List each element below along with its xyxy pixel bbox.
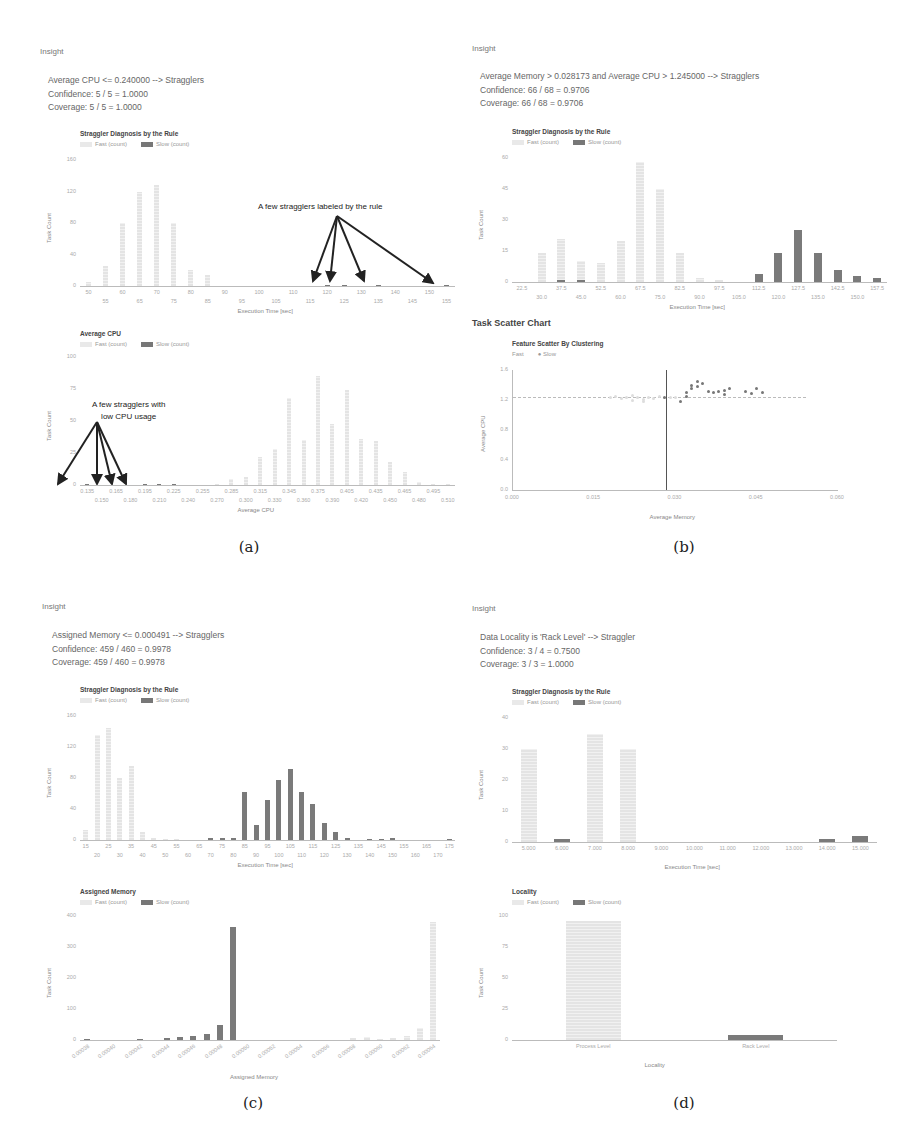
bar-fast[interactable] [258,457,262,485]
point-fast[interactable] [609,396,612,399]
point-fast[interactable] [652,397,655,400]
bar-fast[interactable] [350,1038,356,1040]
bar-fast[interactable] [566,921,621,1040]
bar-slow[interactable] [276,780,281,840]
bar-fast[interactable] [151,838,156,840]
bar-slow[interactable] [242,792,247,840]
point-slow[interactable] [728,387,731,390]
point-slow[interactable] [696,380,699,383]
point-slow[interactable] [696,385,699,388]
point-slow[interactable] [717,390,720,393]
bar-slow[interactable] [814,253,822,282]
bar-slow[interactable] [379,839,384,841]
bar-fast[interactable] [137,192,142,287]
bar-fast[interactable] [577,261,585,282]
point-slow[interactable] [755,387,758,390]
point-fast[interactable] [647,396,650,399]
bar-fast[interactable] [117,778,122,840]
bar-fast[interactable] [390,1038,396,1040]
bar-slow[interactable] [794,230,802,282]
bar-slow[interactable] [774,253,782,282]
bar-fast[interactable] [587,734,603,843]
point-slow[interactable] [712,391,715,394]
bar-fast[interactable] [95,735,100,840]
bar-slow[interactable] [157,484,161,486]
legend-item-fast[interactable]: Fast (count) [80,141,127,147]
point-fast[interactable] [642,400,645,403]
bar-slow[interactable] [190,1036,196,1040]
bar-slow[interactable] [231,838,236,840]
bar-fast[interactable] [430,922,436,1040]
point-slow[interactable] [663,396,666,399]
point-fast[interactable] [620,397,623,400]
bar-fast[interactable] [597,263,605,282]
bar-fast[interactable] [431,484,435,486]
bar-slow[interactable] [342,285,347,287]
point-slow[interactable] [707,390,710,393]
bar-slow[interactable] [557,280,565,282]
bar-slow[interactable] [819,839,835,842]
point-slow[interactable] [685,395,688,398]
point-slow[interactable] [690,384,693,387]
bar-fast[interactable] [417,1028,423,1040]
point-slow[interactable] [744,390,747,393]
bar-fast[interactable] [106,728,111,840]
bar-fast[interactable] [129,766,134,840]
bar-fast[interactable] [388,462,392,485]
bar-slow[interactable] [164,1038,170,1040]
bar-slow[interactable] [84,1039,90,1041]
bar-slow[interactable] [177,1037,183,1040]
legend-item-slow[interactable]: Slow (count) [573,139,621,145]
bar-fast[interactable] [656,189,664,282]
bar-slow[interactable] [322,823,327,840]
bar-slow[interactable] [853,276,861,282]
bar-slow[interactable] [345,838,350,840]
point-fast[interactable] [658,395,661,398]
legend-item-slow[interactable]: Slow (count) [573,899,621,905]
bar-fast[interactable] [359,439,363,485]
bar-slow[interactable] [204,1034,210,1040]
bar-fast[interactable] [330,424,334,485]
legend-item-slow[interactable]: Slow (count) [141,697,189,703]
bar-fast[interactable] [715,280,723,282]
legend-item-fast[interactable]: Fast (count) [80,341,127,347]
legend-item-slow[interactable]: Slow (count) [141,141,189,147]
point-slow[interactable] [723,393,726,396]
bar-slow[interactable] [447,839,452,841]
bar-slow[interactable] [554,839,570,842]
bar-slow[interactable] [444,285,449,287]
bar-fast[interactable] [188,270,193,286]
bar-slow[interactable] [85,484,89,486]
point-slow[interactable] [679,400,682,403]
point-fast[interactable] [669,396,672,399]
bar-slow[interactable] [230,927,236,1040]
point-slow[interactable] [701,382,704,385]
bar-slow[interactable] [143,484,147,486]
bar-fast[interactable] [364,1037,370,1040]
bar-fast[interactable] [163,839,168,841]
bar-slow[interactable] [137,1039,143,1041]
bar-fast[interactable] [636,162,644,282]
point-fast[interactable] [636,396,639,399]
legend-item-fast[interactable]: Fast (count) [512,139,559,145]
bar-slow[interactable] [325,285,330,287]
bar-fast[interactable] [171,223,176,286]
bar-fast[interactable] [676,253,684,282]
point-fast[interactable] [631,394,634,397]
bar-fast[interactable] [229,479,233,485]
bar-fast[interactable] [557,239,565,282]
bar-fast[interactable] [446,484,450,486]
bar-fast[interactable] [86,282,91,286]
bar-slow[interactable] [288,769,293,840]
bar-fast[interactable] [154,185,159,286]
bar-fast[interactable] [404,1036,410,1040]
bar-slow[interactable] [254,825,259,841]
legend-item-slow[interactable]: Slow (count) [141,899,189,905]
point-slow[interactable] [761,391,764,394]
bar-fast[interactable] [215,484,219,486]
bar-slow[interactable] [299,792,304,840]
bar-slow[interactable] [265,800,270,840]
bar-slow[interactable] [834,270,842,282]
legend-item-fast[interactable]: Fast [512,351,524,357]
bar-fast[interactable] [538,253,546,282]
